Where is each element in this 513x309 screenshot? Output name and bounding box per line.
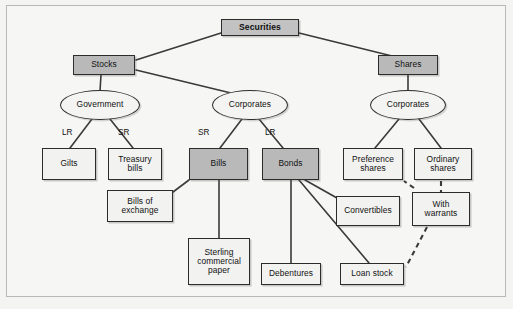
edge-label-government-lr: LR	[62, 128, 72, 137]
node-convertibles[interactable]: Convertibles	[336, 196, 400, 226]
edge-label-corporates-sr: SR	[198, 128, 209, 137]
node-preference-shares[interactable]: Preference shares	[343, 148, 403, 180]
edge-government-gilts	[70, 119, 92, 148]
node-bonds[interactable]: Bonds	[262, 148, 319, 180]
node-corporates-stocks[interactable]: Corporates	[212, 90, 288, 120]
node-debentures[interactable]: Debentures	[261, 263, 321, 285]
node-with-warrants[interactable]: With warrants	[412, 192, 470, 226]
node-treasury-bills[interactable]: Treasury bills	[108, 148, 162, 180]
edge-corporates-bills	[220, 119, 242, 148]
node-securities[interactable]: Securities	[221, 19, 299, 36]
edge-label-government-sr: SR	[118, 128, 129, 137]
edge-stocks-corporates	[136, 70, 231, 93]
edge-withwarrants-loanstock	[406, 227, 427, 267]
securities-diagram: Securities Stocks Shares Government Corp…	[0, 0, 513, 309]
node-corporates-shares[interactable]: Corporates	[370, 90, 446, 120]
node-loan-stock[interactable]: Loan stock	[340, 263, 404, 285]
edge-corporates-ordinary	[419, 119, 441, 148]
node-government[interactable]: Government	[60, 90, 140, 120]
node-sterling-commercial-paper[interactable]: Sterling commercial paper	[188, 238, 250, 285]
edge-ordinary-stub	[404, 181, 414, 188]
edge-securities-stocks	[136, 33, 221, 60]
edge-bills-billsofexchange	[173, 180, 189, 192]
edge-label-corporates-lr: LR	[265, 128, 275, 137]
node-bills-of-exchange[interactable]: Bills of exchange	[107, 190, 173, 222]
edge-securities-shares	[299, 33, 392, 56]
edge-stocks-government	[100, 75, 101, 91]
node-ordinary-shares[interactable]: Ordinary shares	[414, 148, 472, 180]
node-gilts[interactable]: Gilts	[42, 148, 96, 180]
edge-corporates-preference	[375, 119, 399, 148]
node-shares[interactable]: Shares	[378, 55, 438, 75]
node-stocks[interactable]: Stocks	[73, 55, 135, 75]
node-bills[interactable]: Bills	[189, 148, 248, 180]
edge-bonds-convertibles	[305, 180, 337, 198]
